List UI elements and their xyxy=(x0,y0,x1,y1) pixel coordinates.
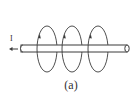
current-label: I xyxy=(10,34,13,43)
current-arrow-icon xyxy=(9,47,18,51)
field-direction-arrows xyxy=(38,34,92,38)
rod-right-end xyxy=(125,45,129,52)
figure-caption: (a) xyxy=(3,78,136,93)
rod-left-end xyxy=(21,45,24,52)
